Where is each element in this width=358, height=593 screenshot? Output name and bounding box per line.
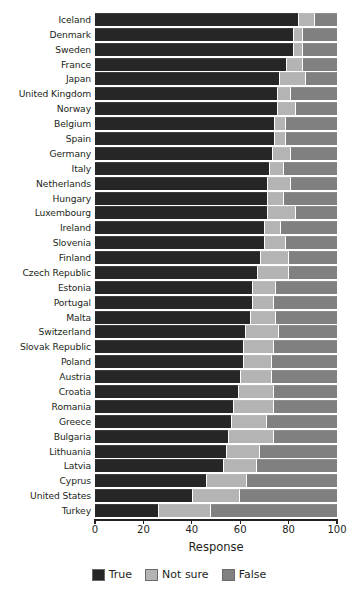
category-label-slovak-republic: Slovak Republic: [1, 340, 91, 353]
bar-segment-false: [303, 28, 337, 41]
category-label-bulgaria: Bulgaria: [1, 430, 91, 443]
bar-segment-true: [95, 177, 267, 190]
bar-row: [95, 102, 337, 115]
category-label-lithuania: Lithuania: [1, 445, 91, 458]
bar-segment-true: [95, 355, 243, 368]
category-label-croatia: Croatia: [1, 385, 91, 398]
bar-segment-notsure: [243, 355, 272, 368]
bar-segment-false: [274, 340, 337, 353]
bar-segment-notsure: [277, 87, 292, 100]
bar-segment-true: [95, 266, 257, 279]
category-label-cyprus: Cyprus: [1, 474, 91, 487]
bar-row: [95, 58, 337, 71]
bar-segment-notsure: [264, 236, 286, 249]
bar-segment-notsure: [158, 504, 211, 517]
bar-row: [95, 206, 337, 219]
bar-row: [95, 385, 337, 398]
legend-swatch-icon: [92, 569, 105, 581]
bar-segment-true: [95, 147, 272, 160]
bar-segment-false: [272, 355, 337, 368]
category-label-belgium: Belgium: [1, 117, 91, 130]
bar-row: [95, 459, 337, 472]
bar-row: [95, 281, 337, 294]
category-label-united-states: United States: [1, 489, 91, 502]
bar-row: [95, 355, 337, 368]
category-label-malta: Malta: [1, 311, 91, 324]
bar-row: [95, 430, 337, 443]
category-label-finland: Finland: [1, 251, 91, 264]
bar-row: [95, 296, 337, 309]
category-label-ireland: Ireland: [1, 221, 91, 234]
bar-segment-true: [95, 415, 231, 428]
bar-segment-true: [95, 340, 243, 353]
bar-row: [95, 192, 337, 205]
bar-segment-true: [95, 236, 264, 249]
bar-row: [95, 72, 337, 85]
bar-segment-notsure: [277, 102, 296, 115]
bar-segment-false: [286, 117, 337, 130]
legend-item-not-sure[interactable]: Not sure: [145, 568, 209, 581]
category-label-greece: Greece: [1, 415, 91, 428]
bar-segment-false: [260, 445, 337, 458]
bar-segment-notsure: [274, 132, 286, 145]
category-label-estonia: Estonia: [1, 281, 91, 294]
bar-segment-true: [95, 459, 223, 472]
bar-row: [95, 325, 337, 338]
bar-segment-true: [95, 43, 293, 56]
bar-segment-true: [95, 325, 245, 338]
category-label-czech-republic: Czech Republic: [1, 266, 91, 279]
bar-row: [95, 489, 337, 502]
bar-segment-true: [95, 206, 267, 219]
bar-segment-false: [286, 236, 337, 249]
bar-segment-notsure: [286, 58, 303, 71]
bar-segment-false: [291, 177, 337, 190]
bar-segment-true: [95, 58, 286, 71]
bar-segment-false: [276, 281, 337, 294]
bar-segment-true: [95, 474, 206, 487]
bar-segment-notsure: [279, 72, 306, 85]
x-axis-title: Response: [95, 540, 337, 554]
bar-segment-true: [95, 28, 293, 41]
bar-row: [95, 132, 337, 145]
x-tick-label-20: 20: [137, 524, 150, 535]
bar-segment-notsure: [267, 206, 296, 219]
bar-segment-false: [291, 87, 337, 100]
category-axis-labels: IcelandDenmarkSwedenFranceJapanUnited Ki…: [0, 12, 91, 518]
bar-row: [95, 221, 337, 234]
category-label-hungary: Hungary: [1, 192, 91, 205]
legend-label: False: [239, 568, 267, 581]
bar-row: [95, 370, 337, 383]
legend-label: Not sure: [162, 568, 209, 581]
category-label-spain: Spain: [1, 132, 91, 145]
bar-segment-notsure: [231, 415, 267, 428]
bar-segment-false: [284, 192, 337, 205]
bar-segment-false: [274, 430, 337, 443]
bar-segment-notsure: [264, 221, 281, 234]
bar-segment-true: [95, 311, 250, 324]
legend-item-false[interactable]: False: [222, 568, 267, 581]
legend-item-true[interactable]: True: [92, 568, 132, 581]
bar-segment-false: [257, 459, 337, 472]
bar-segment-notsure: [269, 162, 284, 175]
bar-segment-notsure: [243, 340, 274, 353]
x-tick-label-0: 0: [92, 524, 98, 535]
bar-segment-notsure: [293, 28, 303, 41]
bar-row: [95, 117, 337, 130]
x-tick-label-100: 100: [327, 524, 346, 535]
bar-row: [95, 177, 337, 190]
bar-segment-notsure: [250, 311, 277, 324]
category-label-germany: Germany: [1, 147, 91, 160]
category-label-turkey: Turkey: [1, 504, 91, 517]
stacked-bar-chart: IcelandDenmarkSwedenFranceJapanUnited Ki…: [0, 0, 358, 593]
x-axis-line: [95, 519, 337, 521]
bar-segment-notsure: [272, 147, 291, 160]
bar-row: [95, 87, 337, 100]
bar-segment-true: [95, 72, 279, 85]
bar-row: [95, 400, 337, 413]
bar-segment-true: [95, 251, 260, 264]
category-label-portugal: Portugal: [1, 296, 91, 309]
bar-segment-true: [95, 162, 269, 175]
bar-segment-true: [95, 221, 264, 234]
bar-segment-notsure: [228, 430, 274, 443]
bar-segment-notsure: [298, 13, 315, 26]
